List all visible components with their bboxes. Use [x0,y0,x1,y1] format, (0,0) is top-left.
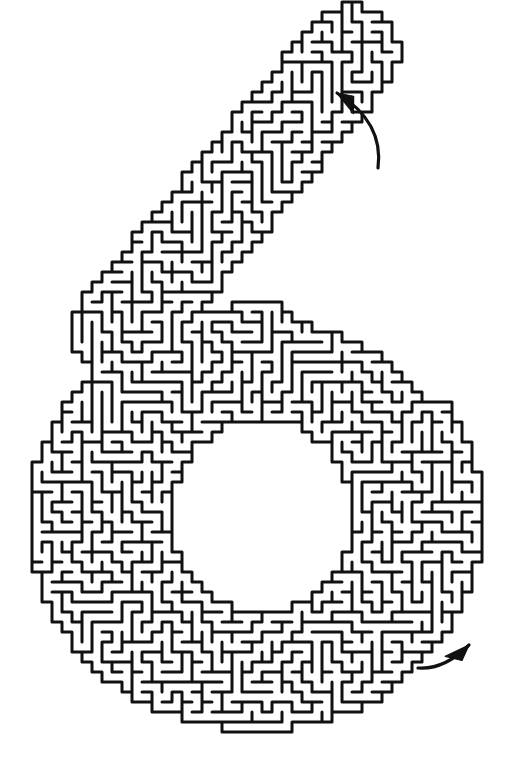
maze-canvas [0,0,505,777]
maze-figure [0,0,505,777]
